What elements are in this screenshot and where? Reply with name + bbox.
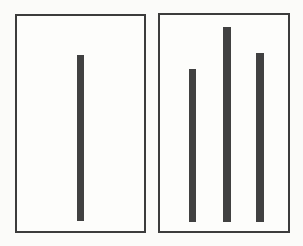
asch-line-judgment-figure [0,0,303,246]
standard-line [77,55,84,221]
comparison-line-c [256,53,264,222]
standard-line-card [15,14,146,233]
comparison-line-b [223,27,231,222]
comparison-lines-card [158,13,290,233]
comparison-line-a [189,69,196,222]
